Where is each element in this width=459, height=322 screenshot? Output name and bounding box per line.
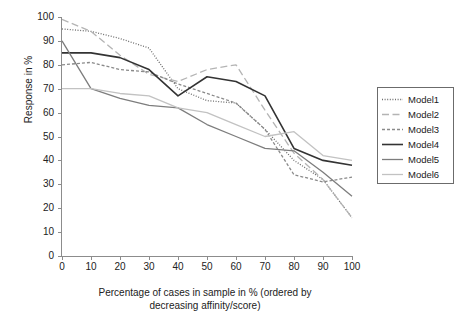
series-line-model1 — [62, 29, 352, 218]
series-line-model4 — [62, 53, 352, 165]
chart-legend: Model1Model2Model3Model4Model5Model6 — [377, 87, 454, 184]
legend-item-model6[interactable]: Model6 — [378, 167, 453, 182]
x-tick-label-0: 0 — [47, 262, 77, 272]
y-tick-label-60: 60 — [20, 108, 54, 118]
legend-swatch-model2 — [382, 110, 403, 119]
y-tick-label-20: 20 — [20, 203, 54, 213]
legend-swatch-model4 — [382, 140, 403, 149]
x-tick-label-50: 50 — [192, 262, 222, 272]
x-axis-title: Percentage of cases in sample in % (orde… — [40, 286, 370, 312]
legend-label-model2: Model2 — [408, 109, 439, 120]
x-tick-20 — [120, 256, 121, 260]
x-tick-70 — [265, 256, 266, 260]
y-tick-label-100: 100 — [20, 12, 54, 22]
series-line-model5 — [62, 41, 352, 196]
x-tick-40 — [178, 256, 179, 260]
y-tick-label-0: 0 — [20, 251, 54, 261]
x-tick-10 — [91, 256, 92, 260]
x-tick-50 — [207, 256, 208, 260]
x-axis-title-line-1: Percentage of cases in sample in % (orde… — [99, 287, 312, 298]
legend-label-model6: Model6 — [408, 169, 439, 180]
legend-item-model3[interactable]: Model3 — [378, 122, 453, 137]
legend-swatch-model5 — [382, 155, 403, 164]
series-line-model3 — [62, 62, 352, 182]
x-tick-80 — [294, 256, 295, 260]
x-tick-label-60: 60 — [221, 262, 251, 272]
y-tick-label-90: 90 — [20, 36, 54, 46]
chart-container: Response in % 0102030405060708090100 010… — [0, 0, 459, 322]
x-tick-30 — [149, 256, 150, 260]
series-line-model2 — [62, 19, 352, 217]
x-tick-label-40: 40 — [163, 262, 193, 272]
legend-item-model5[interactable]: Model5 — [378, 152, 453, 167]
legend-item-model1[interactable]: Model1 — [378, 92, 453, 107]
x-tick-90 — [323, 256, 324, 260]
legend-item-model2[interactable]: Model2 — [378, 107, 453, 122]
legend-label-model5: Model5 — [408, 154, 439, 165]
legend-label-model4: Model4 — [408, 139, 439, 150]
x-tick-label-100: 100 — [337, 262, 367, 272]
y-tick-label-80: 80 — [20, 60, 54, 70]
x-axis-title-line-2: decreasing affinity/score) — [150, 300, 261, 311]
y-tick-label-30: 30 — [20, 179, 54, 189]
legend-label-model1: Model1 — [408, 94, 439, 105]
x-tick-label-80: 80 — [279, 262, 309, 272]
x-tick-0 — [62, 256, 63, 260]
legend-label-model3: Model3 — [408, 124, 439, 135]
legend-swatch-model1 — [382, 95, 403, 104]
x-tick-label-30: 30 — [134, 262, 164, 272]
legend-swatch-model6 — [382, 170, 403, 179]
plot-area — [62, 17, 352, 256]
x-tick-label-90: 90 — [308, 262, 338, 272]
y-tick-label-50: 50 — [20, 132, 54, 142]
y-tick-label-10: 10 — [20, 227, 54, 237]
y-tick-label-70: 70 — [20, 84, 54, 94]
y-tick-label-40: 40 — [20, 155, 54, 165]
legend-swatch-model3 — [382, 125, 403, 134]
x-tick-60 — [236, 256, 237, 260]
x-tick-label-10: 10 — [76, 262, 106, 272]
legend-item-model4[interactable]: Model4 — [378, 137, 453, 152]
x-tick-100 — [352, 256, 353, 260]
x-tick-label-70: 70 — [250, 262, 280, 272]
series-lines — [62, 17, 352, 256]
x-tick-label-20: 20 — [105, 262, 135, 272]
